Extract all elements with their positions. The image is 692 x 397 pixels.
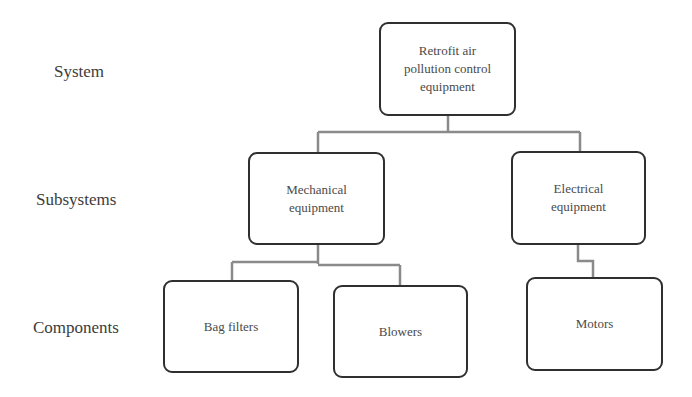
node-text-line: Mechanical	[286, 181, 347, 199]
node-text-line: equipment	[551, 198, 606, 216]
node-text-line: equipment	[404, 78, 491, 96]
node-blowers: Blowers	[333, 285, 468, 378]
node-bag-filters: Bag filters	[163, 280, 299, 373]
node-text: Bag filters	[204, 318, 259, 336]
node-text: Blowers	[379, 323, 422, 341]
node-electrical-equipment: Electrical equipment	[511, 151, 646, 245]
node-text-line: Retrofit air	[404, 42, 491, 60]
node-text-line: equipment	[286, 199, 347, 217]
node-text-line: pollution control	[404, 60, 491, 78]
node-motors: Motors	[526, 277, 663, 371]
level-label-components: Components	[33, 318, 119, 338]
node-text-line: Electrical	[551, 180, 606, 198]
node-retrofit-air-pollution-control-equipment: Retrofit air pollution control equipment	[379, 22, 516, 116]
level-label-system: System	[54, 62, 104, 82]
node-mechanical-equipment: Mechanical equipment	[248, 152, 385, 245]
level-label-subsystems: Subsystems	[36, 190, 116, 210]
node-text: Motors	[576, 315, 614, 333]
